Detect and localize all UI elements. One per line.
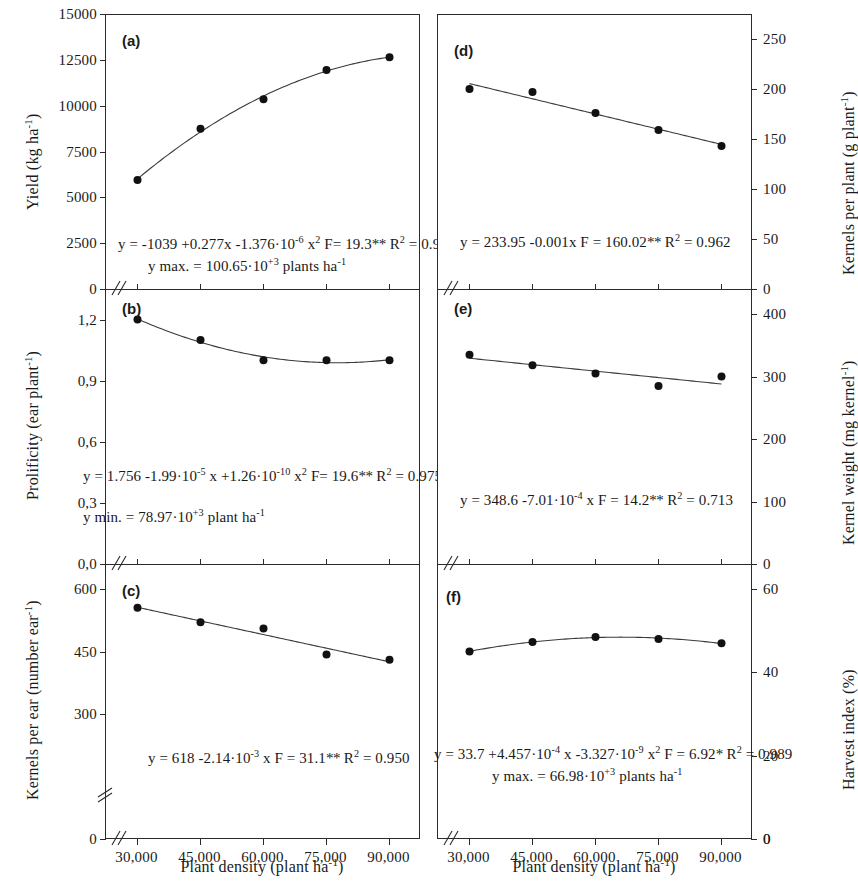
panel-b-equation-line1: y = 1.756 -1.99·10-5 x +1.26·10-10 x2 F=…: [83, 468, 442, 485]
panel-a-y-axis-title-tail: ): [24, 114, 41, 120]
panel-d-y-tick-mark: [751, 139, 757, 140]
panel-a-data-point: [260, 95, 268, 103]
panel-e-data-point: [718, 373, 726, 381]
panel-a-fit-curve: [138, 57, 390, 179]
x-axis-title-right: Plant density (plant ha-1): [512, 858, 675, 876]
panel-a-y-tick-label: 7500: [47, 143, 97, 160]
x-tick-mark: [469, 839, 470, 845]
panel-d-data-point: [592, 109, 600, 117]
panel-b-y-tick-label: 0,6: [47, 433, 97, 450]
panel-d-data-point: [655, 126, 663, 134]
panel-a-data-point: [134, 176, 142, 184]
panel-e-y-tick-label: 0: [763, 556, 815, 573]
panel-c-data-svg: [106, 564, 421, 839]
x-tick-mark: [200, 839, 201, 845]
panel-a-y-tick-mark: [100, 197, 106, 198]
panel-a-equation-line1: y = -1039 +0.277x -1.376·10-6 x2 F= 19.3…: [118, 236, 456, 253]
x-tick-label: 30,000: [115, 849, 157, 866]
panel-c-y-tick-mark: [100, 589, 106, 590]
panel-a-equation-line2: y max. = 100.65·10+3 plants ha-1: [148, 258, 346, 275]
panel-e-data-point: [466, 351, 474, 359]
panel-e-y-axis-title-text: Kernel weight (mg kernel: [840, 375, 857, 545]
panel-c-y-tick-label: 450: [47, 643, 97, 660]
panel-e-y-axis-title-sup: -1: [838, 366, 850, 375]
panel-e-label: (e): [454, 300, 472, 317]
panel-b-fit-curve: [138, 319, 390, 363]
panel-c-y-axis-title-sup: -1: [22, 606, 34, 615]
panel-c-label: (c): [122, 582, 140, 599]
panel-d-data-point: [529, 88, 537, 96]
x-tick-mark-interior: [595, 284, 596, 289]
x-tick-mark-interior: [389, 284, 390, 289]
x-tick-label: 30,000: [447, 849, 489, 866]
panel-c-y-tick-mark: [100, 652, 106, 653]
panel-e-y-tick-mark: [751, 377, 757, 378]
x-axis-right-zero-label: 0: [763, 831, 803, 848]
panel-d-y-tick-label: 250: [763, 31, 815, 48]
x-tick-mark-interior: [263, 284, 264, 289]
x-axis-break-symbol: [439, 279, 465, 299]
panel-e-plot-area: [437, 289, 752, 564]
panel-d-y-tick-label: 150: [763, 131, 815, 148]
panel-d-data-point: [466, 85, 474, 93]
panel-d-label: (d): [454, 42, 473, 59]
panel-e-y-tick-label: 400: [763, 306, 815, 323]
panel-c-data-point: [197, 618, 205, 626]
panel-b-y-tick-label: 0,9: [47, 372, 97, 389]
panel-f-data-point: [655, 635, 663, 643]
panel-c-y-axis-title-text: Kernels per ear (number ear: [24, 615, 41, 800]
panel-e-y-tick-label: 100: [763, 493, 815, 510]
x-tick-mark-interior: [595, 559, 596, 564]
panel-d-y-tick-label: 100: [763, 181, 815, 198]
x-tick-mark-interior: [200, 559, 201, 564]
panel-a-label: (a): [122, 32, 140, 49]
panel-b-bottom-axis: [105, 564, 420, 565]
panel-a-y-tick-label: 12500: [47, 51, 97, 68]
x-tick-mark: [389, 839, 390, 845]
panel-d-y-axis-title: Kernels per plant (g plant-1): [840, 91, 858, 275]
panel-c-y-tick-label: 300: [47, 706, 97, 723]
x-tick-mark: [721, 839, 722, 845]
panel-c-y-axis-title: Kernels per ear (number ear-1): [24, 600, 42, 800]
panel-b-data-point: [197, 336, 205, 344]
panel-f-y-tick-label: 20: [763, 747, 815, 764]
panel-c-y-axis-break-symbol: [96, 782, 116, 808]
panel-b-y-tick-mark: [100, 503, 106, 504]
panel-e-data-svg: [438, 289, 753, 564]
panel-e-data-point: [655, 382, 663, 390]
x-tick-mark: [658, 839, 659, 845]
panel-b-y-tick-mark: [100, 381, 106, 382]
x-tick-mark-interior: [721, 559, 722, 564]
panel-d-y-tick-mark: [751, 239, 757, 240]
panel-a-y-tick-label: 2500: [47, 235, 97, 252]
panel-b-data-point: [260, 356, 268, 364]
panel-d-y-tick-mark: [751, 89, 757, 90]
panel-e-y-tick-mark: [751, 314, 757, 315]
x-tick-mark-interior: [532, 559, 533, 564]
panel-d-data-point: [718, 142, 726, 150]
panel-f-data-point: [718, 639, 726, 647]
panel-a-data-point: [197, 125, 205, 133]
panel-a-y-tick-mark: [100, 152, 106, 153]
panel-b-y-axis-title-tail: ): [24, 351, 41, 357]
x-tick-mark: [532, 839, 533, 845]
panel-f-y-tick-mark: [751, 589, 757, 590]
panel-e-y-tick-mark: [751, 439, 757, 440]
panel-b-y-axis-title-text: Prolificity (ear plant: [24, 366, 41, 500]
panel-a-y-axis-title-text: Yield (kg ha: [24, 129, 41, 211]
panel-f-label: (f): [446, 588, 461, 605]
panel-a-y-tick-mark: [100, 14, 106, 15]
x-tick-mark-interior: [137, 284, 138, 289]
panel-c-plot-area: [105, 564, 420, 839]
panel-b-y-tick-label: 0,3: [47, 494, 97, 511]
panel-a-y-tick-label: 5000: [47, 189, 97, 206]
panel-b-y-tick-mark: [100, 320, 106, 321]
panel-a-y-tick-label: 10000: [47, 97, 97, 114]
x-tick-mark: [263, 839, 264, 845]
x-tick-mark-interior: [721, 284, 722, 289]
panel-a-bottom-axis: [105, 289, 420, 290]
panel-d-y-tick-label: 50: [763, 231, 815, 248]
x-tick-mark: [595, 839, 596, 845]
panel-a-y-axis-title: Yield (kg ha-1): [24, 114, 42, 211]
